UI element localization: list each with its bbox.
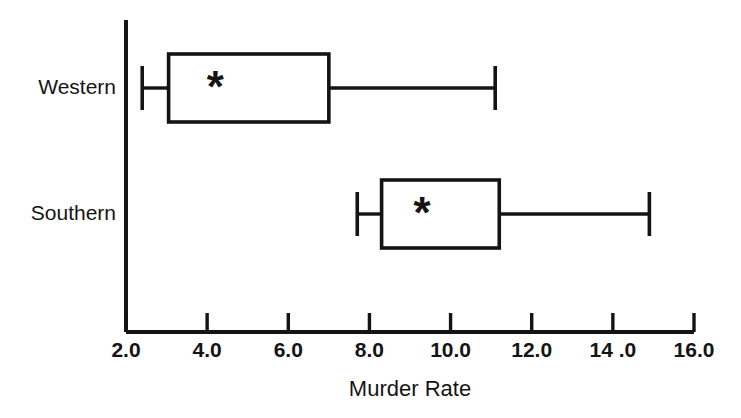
mean-marker-asterisk: *	[207, 62, 225, 111]
x-axis-tick-label: 6.0	[274, 338, 303, 361]
x-axis-ticks	[126, 313, 694, 332]
category-label-southern: Southern	[31, 201, 116, 224]
x-axis-tick-labels: 2.04.06.08.010.012.014 .016.0	[111, 338, 714, 361]
x-axis-tick-label: 2.0	[111, 338, 140, 361]
x-axis-tick-label: 4.0	[193, 338, 222, 361]
category-label-western: Western	[38, 75, 116, 98]
x-axis-tick-label: 12.0	[511, 338, 552, 361]
box-iqr	[382, 180, 500, 248]
mean-marker-asterisk: *	[414, 188, 432, 237]
box-iqr	[169, 54, 329, 122]
x-axis-tick-label: 16.0	[674, 338, 715, 361]
x-axis-title: Murder Rate	[349, 376, 471, 401]
x-axis-tick-label: 14 .0	[589, 338, 636, 361]
box-plots-group: **	[142, 54, 649, 248]
box-plot-chart: 2.04.06.08.010.012.014 .016.0 WesternSou…	[0, 0, 741, 418]
box-plot-svg: 2.04.06.08.010.012.014 .016.0 WesternSou…	[0, 0, 741, 418]
x-axis-tick-label: 8.0	[355, 338, 384, 361]
box-plot-western: *	[142, 54, 495, 122]
category-labels: WesternSouthern	[31, 75, 116, 224]
x-axis-tick-label: 10.0	[430, 338, 471, 361]
box-plot-southern: *	[357, 180, 649, 248]
